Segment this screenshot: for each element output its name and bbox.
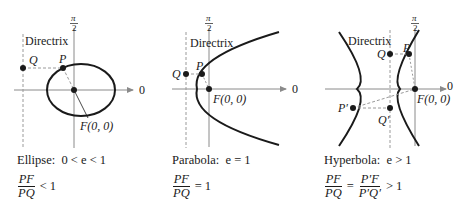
caption-condition: e > 1	[386, 153, 411, 167]
hyperbola-ratio: PF PQ = P′F P′Q′ > 1	[324, 173, 406, 200]
ratio-denominator: PQ	[324, 187, 343, 200]
parabola-ratio: PF PQ = 1	[172, 173, 215, 200]
point-f	[206, 86, 212, 92]
q-label: Q	[29, 53, 38, 67]
f-label: F(0, 0)	[79, 119, 113, 133]
hyperbola-caption: Hyperbola: e > 1	[324, 153, 412, 168]
caption-name: Ellipse:	[17, 153, 55, 167]
ellipse-ratio: PF PQ < 1	[17, 173, 60, 200]
directrix-label: Directrix	[348, 34, 391, 48]
ratio-fraction: PF PQ	[172, 173, 191, 200]
hyperbola-panel: π 2 Directrix Q P P′ Q′ F(0, 0) 0	[325, 13, 453, 148]
directrix-label: Directrix	[25, 34, 68, 48]
q-prime-label: Q′	[378, 113, 390, 127]
two-label: 2	[413, 23, 418, 33]
f-label: F(0, 0)	[212, 92, 246, 106]
ellipse-panel: π 2 Directrix Q P F(0, 0) 0	[14, 13, 145, 148]
ratio-denominator: PQ	[172, 187, 191, 200]
pi-label: π	[206, 13, 211, 23]
point-f	[71, 87, 77, 93]
ratio-result: = 1	[195, 179, 211, 194]
ratio-denominator: PQ	[17, 187, 36, 200]
ratio2-numerator: P′F	[360, 173, 380, 187]
ratio-result: < 1	[40, 179, 56, 194]
ratio-numerator: PF	[325, 173, 342, 187]
p-label: P	[58, 52, 67, 66]
f-label: F(0, 0)	[416, 92, 450, 106]
ratio2-denominator: P′Q′	[358, 187, 382, 200]
two-label: 2	[72, 23, 77, 33]
point-q	[20, 65, 26, 71]
pf-segment	[409, 54, 415, 89]
caption-condition: e = 1	[225, 153, 250, 167]
point-q	[387, 51, 393, 57]
zero-label: 0	[139, 83, 145, 97]
ellipse-caption: Ellipse: 0 < e < 1	[17, 153, 106, 168]
two-label: 2	[207, 23, 212, 33]
ratio-numerator: PF	[173, 173, 190, 187]
ratio-equals: =	[347, 179, 354, 194]
caption-name: Parabola:	[172, 153, 219, 167]
parabola-panel: π 2 Directrix Q P F(0, 0) 0	[172, 13, 298, 148]
f-label-leader	[74, 90, 88, 118]
p-prime-label: P′	[337, 101, 348, 115]
caption-name: Hyperbola:	[324, 153, 380, 167]
p-label: P	[402, 41, 411, 55]
pf-segment	[63, 68, 74, 90]
point-q	[183, 71, 189, 77]
ratio-fraction: PF PQ	[17, 173, 36, 200]
pi-label: π	[412, 13, 417, 23]
ratio2-fraction: P′F P′Q′	[358, 173, 382, 200]
zero-label: 0	[292, 82, 298, 96]
q-label: Q	[172, 67, 181, 81]
point-p-prime	[350, 105, 356, 111]
p-label: P	[195, 59, 204, 73]
ratio-fraction: PF PQ	[324, 173, 343, 200]
parabola-caption: Parabola: e = 1	[172, 153, 251, 168]
caption-condition: 0 < e < 1	[61, 153, 106, 167]
pi-label: π	[71, 13, 76, 23]
ratio-result: > 1	[386, 179, 402, 194]
point-q-prime	[387, 105, 393, 111]
p2f-segment	[353, 89, 415, 108]
ratio-numerator: PF	[18, 173, 35, 187]
q-label: Q	[377, 47, 386, 61]
directrix-label: Directrix	[190, 36, 233, 50]
zero-label: 0	[447, 79, 453, 93]
